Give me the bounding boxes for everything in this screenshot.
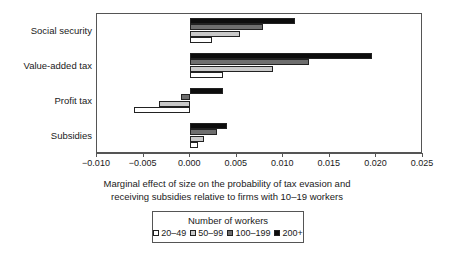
x-tick-label: 0.025 <box>399 158 445 169</box>
legend-swatch-icon <box>274 230 280 236</box>
bar-profit-tax-200+ <box>190 88 223 94</box>
bar-subsidies-200+ <box>190 123 227 129</box>
legend-label: 200+ <box>282 228 302 238</box>
zero-reference-line <box>96 13 97 153</box>
x-tick <box>282 153 283 157</box>
bar-subsidies-50-99 <box>190 136 204 142</box>
x-tick-label: −0.005 <box>120 158 166 169</box>
legend: Number of workers 20–4950–99100–199200+ <box>152 211 304 243</box>
chart-figure: Social securityValue-added taxProfit tax… <box>0 0 454 256</box>
x-tick-label: 0.010 <box>259 158 305 169</box>
bar-social-security-50-99 <box>190 31 239 37</box>
category-label: Subsidies <box>0 131 92 141</box>
legend-swatch-icon <box>227 230 233 236</box>
x-axis-line <box>96 153 422 154</box>
bar-value-added-tax-50-99 <box>190 66 273 72</box>
bar-social-security-100-199 <box>190 24 263 30</box>
x-tick-label: −0.010 <box>73 158 119 169</box>
legend-item: 20–49 <box>153 228 186 238</box>
legend-swatch-icon <box>153 230 159 236</box>
legend-title: Number of workers <box>157 215 299 226</box>
x-axis-caption-line-2: receiving subsidies relative to firms wi… <box>27 191 427 204</box>
legend-item: 50–99 <box>190 228 223 238</box>
category-label: Social security <box>0 26 92 36</box>
x-axis-caption: Marginal effect of size on the probabili… <box>27 178 427 203</box>
x-tick-label: 0.020 <box>352 158 398 169</box>
bar-value-added-tax-200+ <box>190 53 372 59</box>
x-tick-label: 0.015 <box>306 158 352 169</box>
bar-subsidies-20-49 <box>190 142 197 148</box>
bar-profit-tax-50-99 <box>159 101 190 107</box>
x-tick <box>96 153 97 157</box>
legend-items: 20–4950–99100–199200+ <box>157 228 299 238</box>
bar-profit-tax-20-49 <box>134 107 190 113</box>
y-axis-category-labels: Social securityValue-added taxProfit tax… <box>0 13 92 153</box>
x-tick <box>329 153 330 157</box>
bar-value-added-tax-20-49 <box>190 72 223 78</box>
x-tick <box>143 153 144 157</box>
x-tick <box>422 153 423 157</box>
legend-swatch-icon <box>190 230 196 236</box>
x-tick <box>236 153 237 157</box>
legend-label: 50–99 <box>198 228 223 238</box>
legend-label: 20–49 <box>161 228 186 238</box>
x-tick <box>189 153 190 157</box>
x-tick-label: 0.005 <box>213 158 259 169</box>
bar-subsidies-100-199 <box>190 129 217 135</box>
legend-label: 100–199 <box>235 228 270 238</box>
x-tick-label: 0.000 <box>166 158 212 169</box>
category-label: Profit tax <box>0 96 92 106</box>
bar-social-security-20-49 <box>190 37 212 43</box>
plot-area <box>96 13 422 153</box>
legend-item: 100–199 <box>227 228 270 238</box>
legend-item: 200+ <box>274 228 302 238</box>
bar-value-added-tax-100-199 <box>190 59 309 65</box>
bar-profit-tax-100-199 <box>181 94 190 100</box>
category-label: Value-added tax <box>0 61 92 71</box>
x-axis-caption-line-1: Marginal effect of size on the probabili… <box>27 178 427 191</box>
bar-social-security-200+ <box>190 18 295 24</box>
x-tick <box>375 153 376 157</box>
